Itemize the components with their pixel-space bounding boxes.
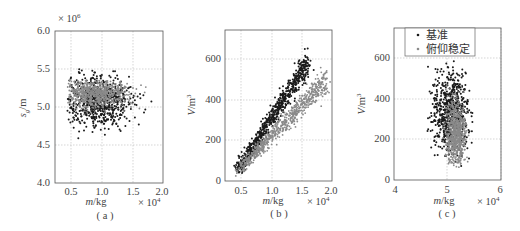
c-caption: ( c ) [439,208,456,220]
b-ylabel: V/m3 [185,94,197,116]
panel-a-points [67,68,153,139]
panel-b: 600 400 200 0 0.5 1.0 1.5 2.0 × 104 m/kg… [185,30,338,220]
a-ytick-4.0: 4.0 [37,177,50,188]
b-caption: ( b ) [270,208,288,220]
c-ytick-400: 400 [374,93,390,104]
a-ytick-4.5: 4.5 [37,139,50,150]
panel-a: 6.0 5.5 5.0 4.5 4.0 0.5 1.0 1.5 2.0 × 10… [17,12,169,222]
a-x-multiplier: × 104 [138,196,161,208]
panel-c: 基准 俯仰稳定 600 400 200 0 4 5 6 × 104 m/kg V… [355,28,503,220]
a-ytick-5.0: 5.0 [37,101,50,112]
a-xtick-1.5: 1.5 [126,186,139,197]
a-xtick-0.5: 0.5 [64,186,77,197]
c-xtick-4: 4 [392,184,398,195]
a-y-multiplier: × 106 [58,12,81,24]
b-xtick-0.5: 0.5 [234,185,247,196]
b-xtick-1.5: 1.5 [295,185,308,196]
c-ytick-200: 200 [374,133,390,144]
b-ytick-600: 600 [205,53,221,64]
legend-marker-baseline [417,34,420,37]
legend: 基准 俯仰稳定 [405,28,475,56]
b-ytick-0: 0 [216,175,221,186]
c-ylabel: V/m3 [355,93,367,115]
c-ytick-600: 600 [374,52,390,63]
legend-label-baseline: 基准 [426,29,448,42]
b-ytick-400: 400 [205,94,221,105]
c-xtick-6: 6 [497,184,502,195]
panel-c-points [427,60,474,168]
b-x-multiplier: × 104 [307,195,330,207]
b-ytick-200: 200 [205,134,221,145]
a-caption: ( a ) [97,210,114,222]
b-xlabel: m/kg [262,195,284,206]
a-ytick-6.0: 6.0 [37,25,50,36]
a-ytick-5.5: 5.5 [37,63,50,74]
legend-label-pitch: 俯仰稳定 [426,42,470,56]
a-xlabel: m/kg [85,196,107,207]
c-ytick-0: 0 [385,174,390,185]
panel-b-points [233,48,331,177]
a-ylabel: sg/m [17,99,31,118]
c-xtick-5: 5 [444,184,449,195]
legend-marker-pitch [417,48,420,51]
figure: 6.0 5.5 5.0 4.5 4.0 0.5 1.0 1.5 2.0 × 10… [0,0,520,231]
c-xlabel: m/kg [433,195,455,206]
c-x-multiplier: × 104 [477,195,500,207]
